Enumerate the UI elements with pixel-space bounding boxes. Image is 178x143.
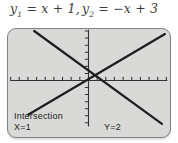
y2-equation: = −x + 3 xyxy=(94,1,158,16)
equation-title: y1 = x + 1,y2 = −x + 3 xyxy=(10,1,158,23)
x-value-label: X=1 xyxy=(14,122,31,132)
line-y1 xyxy=(28,34,165,115)
calculator-screen: Intersection X=1 Y=2 xyxy=(7,28,171,138)
intersection-label: Intersection xyxy=(14,111,63,121)
y-value-label: Y=2 xyxy=(104,122,121,132)
line-y2 xyxy=(34,31,162,124)
y1-equation: = x + 1, xyxy=(22,1,80,16)
